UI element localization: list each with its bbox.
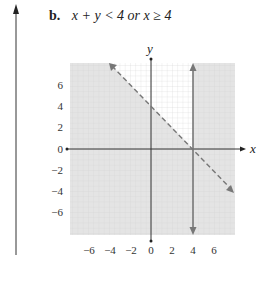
svg-text:0: 0 [58, 143, 64, 155]
svg-text:4: 4 [58, 100, 64, 112]
svg-text:2: 2 [58, 121, 64, 133]
y-axis-label: y [145, 41, 153, 56]
svg-text:−4: −4 [104, 244, 116, 256]
svg-text:−2: −2 [125, 244, 137, 256]
svg-text:−4: −4 [51, 185, 63, 197]
svg-text:−6: −6 [51, 206, 63, 218]
svg-text:6: 6 [58, 79, 64, 91]
svg-text:0: 0 [148, 244, 154, 256]
svg-text:−6: −6 [83, 244, 95, 256]
svg-text:6: 6 [211, 244, 217, 256]
svg-text:−2: −2 [51, 164, 63, 176]
x-axis-label: x [249, 141, 256, 156]
inequality-graph: x y 6 4 2 0 −2 −4 −6 −6 −4 −2 0 2 4 6 [0, 0, 267, 284]
svg-text:4: 4 [190, 244, 196, 256]
x-axis-arrow-icon [240, 147, 246, 152]
svg-text:2: 2 [169, 244, 175, 256]
